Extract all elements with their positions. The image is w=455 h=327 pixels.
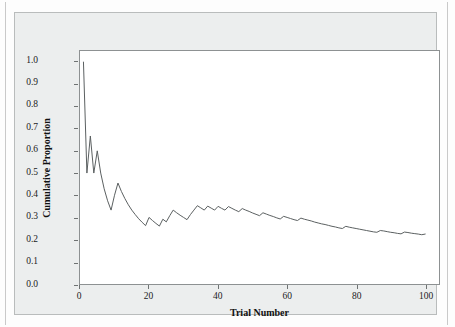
y-axis-tick-label: 0.7 — [0, 123, 38, 133]
x-axis-title: Trial Number — [79, 307, 440, 318]
x-axis-tick-label: 100 — [406, 292, 446, 302]
y-axis-tick-label: 0.2 — [0, 235, 38, 245]
x-axis-tick-label: 20 — [128, 292, 168, 302]
y-axis-tick-label: 0.0 — [0, 280, 38, 290]
y-axis-tick-mark — [74, 61, 78, 62]
x-axis-tick-mark — [426, 285, 427, 289]
y-axis-tick-mark — [74, 106, 78, 107]
outer-rule-left — [5, 2, 6, 325]
x-axis-tick-label: 60 — [267, 292, 307, 302]
x-axis-tick-label: 40 — [198, 292, 238, 302]
y-axis-title: Cumulative Proportion — [39, 50, 53, 285]
figure-panel: Cumulative Proportion 0.00.10.20.30.40.5… — [14, 12, 437, 315]
line-chart-svg — [80, 51, 439, 284]
y-axis-tick-mark — [74, 195, 78, 196]
y-axis-title-label: Cumulative Proportion — [39, 50, 53, 285]
x-axis-tick-label: 80 — [337, 292, 377, 302]
y-axis-tick-mark — [74, 218, 78, 219]
figure-root: Cumulative Proportion 0.00.10.20.30.40.5… — [0, 0, 455, 327]
x-axis-tick-mark — [79, 285, 80, 289]
x-axis-tick-label: 0 — [59, 292, 99, 302]
y-axis-tick-label: 1.0 — [0, 56, 38, 66]
x-axis-tick-mark — [148, 285, 149, 289]
y-axis-tick-label: 0.8 — [0, 100, 38, 110]
x-axis-tick-mark — [287, 285, 288, 289]
y-axis-tick-mark — [74, 128, 78, 129]
x-axis-tick-mark — [218, 285, 219, 289]
y-axis-tick-mark — [74, 240, 78, 241]
y-axis-tick-mark — [74, 285, 78, 286]
x-axis-tick-mark — [357, 285, 358, 289]
y-axis-tick-label: 0.3 — [0, 212, 38, 222]
y-axis-tick-mark — [74, 173, 78, 174]
y-axis-tick-label: 0.1 — [0, 257, 38, 267]
y-axis-tick-label: 0.5 — [0, 168, 38, 178]
y-axis-tick-mark — [74, 263, 78, 264]
outer-rule-right — [447, 2, 448, 325]
y-axis-tick-label: 0.9 — [0, 78, 38, 88]
y-axis-tick-label: 0.6 — [0, 145, 38, 155]
y-axis-tick-label: 0.4 — [0, 190, 38, 200]
y-axis-tick-mark — [74, 84, 78, 85]
series-line-cumulative-proportion — [83, 62, 425, 235]
y-axis-tick-mark — [74, 151, 78, 152]
plot-area — [79, 50, 440, 285]
